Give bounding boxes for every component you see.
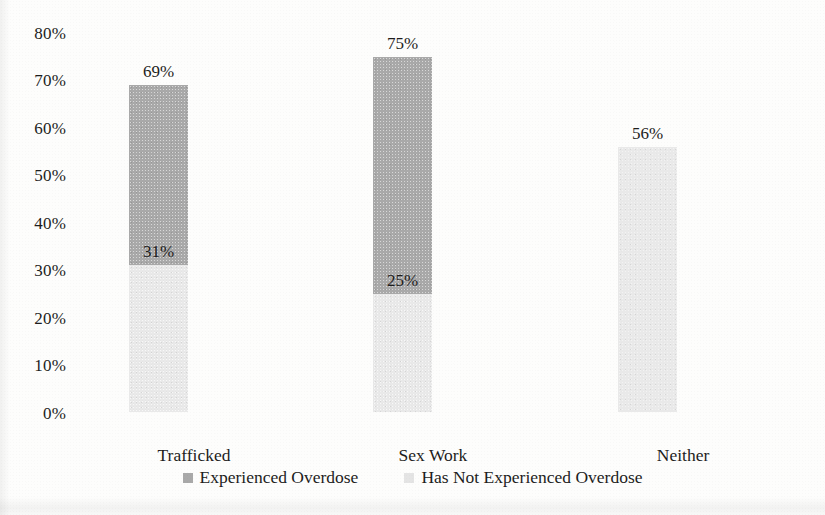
- y-tick-label: 10%: [10, 357, 66, 374]
- y-axis: 80% 70% 60% 50% 40% 30% 20% 10% 0%: [0, 0, 66, 432]
- bar-value-label: 25%: [387, 272, 418, 289]
- legend-label: Has Not Experienced Overdose: [421, 467, 642, 487]
- bar-fill: [129, 265, 188, 412]
- bar-value-label: 56%: [632, 125, 663, 142]
- y-tick-label: 0%: [10, 405, 66, 422]
- legend-item-has-not-experienced-overdose[interactable]: Has Not Experienced Overdose: [404, 467, 642, 487]
- y-tick-label: 20%: [10, 310, 66, 327]
- bar-value-label: 75%: [387, 35, 418, 52]
- scan-edge-shadow-bottom: [0, 497, 825, 515]
- bar-fill: [618, 147, 677, 412]
- bar-chart: 80% 70% 60% 50% 40% 30% 20% 10% 0% 69% 3…: [0, 0, 825, 515]
- legend-swatch-icon: [183, 473, 193, 483]
- bar-group: 44% 56%: [618, 20, 749, 412]
- legend-label: Experienced Overdose: [200, 467, 359, 487]
- bar-group: 75% 25%: [373, 20, 504, 412]
- legend-swatch-icon: [404, 473, 414, 483]
- legend: Experienced Overdose Has Not Experienced…: [0, 467, 825, 487]
- bar-value-label: 69%: [143, 63, 174, 80]
- bar-fill: [373, 294, 432, 412]
- x-axis-label-sex-work: Sex Work: [399, 445, 468, 465]
- bar-neither-not-experienced[interactable]: 56%: [618, 147, 677, 412]
- bar-trafficked-not-experienced[interactable]: 31%: [129, 265, 188, 412]
- x-axis-label-trafficked: Trafficked: [158, 445, 231, 465]
- y-tick-label: 50%: [10, 167, 66, 184]
- legend-item-experienced-overdose[interactable]: Experienced Overdose: [183, 467, 359, 487]
- bar-group: 69% 31%: [129, 20, 260, 412]
- plot-area: 69% 31% 75% 25% 44%: [72, 20, 812, 412]
- y-tick-label: 40%: [10, 215, 66, 232]
- y-tick-label: 70%: [10, 72, 66, 89]
- y-tick-label: 60%: [10, 120, 66, 137]
- bar-value-label: 31%: [143, 243, 174, 260]
- y-tick-label: 30%: [10, 262, 66, 279]
- bar-sexwork-not-experienced[interactable]: 25%: [373, 294, 432, 412]
- y-tick-label: 80%: [10, 25, 66, 42]
- x-axis-label-neither: Neither: [657, 445, 709, 465]
